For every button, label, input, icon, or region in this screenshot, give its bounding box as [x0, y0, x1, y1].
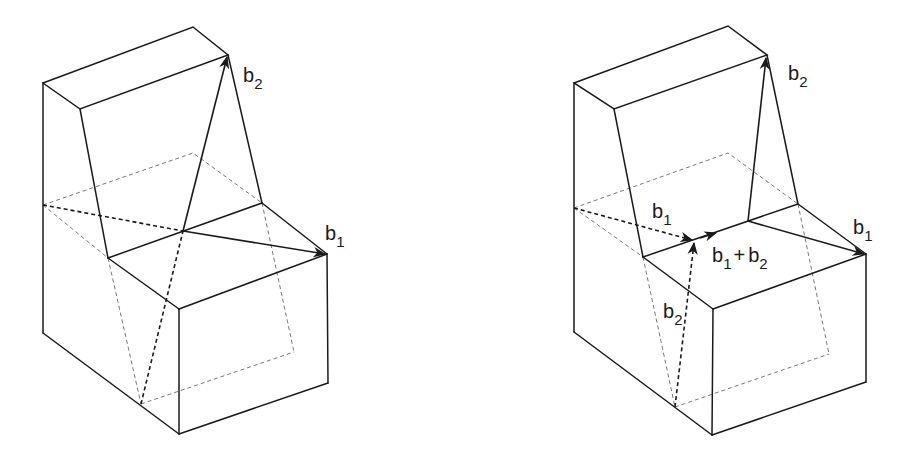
right-b1-right-arrow	[748, 221, 864, 254]
left-b1-hidden-segment	[43, 205, 183, 231]
right-hidden-edges	[574, 153, 829, 407]
left-hidden-edges	[43, 153, 294, 404]
right-label-b1-right: b1	[853, 216, 872, 244]
left-vectors	[43, 57, 325, 404]
right-b2-top-arrow	[748, 58, 766, 221]
right-label-b1-inner: b1	[652, 200, 671, 228]
right-label-b2-inner: b2	[663, 300, 682, 328]
left-figure: b2 b1	[43, 27, 344, 434]
right-figure: b2 b1 b1 b1+b2 b2	[574, 26, 872, 435]
left-b2-arrow	[183, 57, 227, 231]
left-b2-hidden-segment	[141, 231, 183, 404]
right-vectors	[574, 58, 864, 407]
right-sum-arrow	[700, 233, 716, 238]
right-b1-inner-arrow	[574, 208, 692, 240]
right-label-sum: b1+b2	[712, 244, 768, 272]
left-solid-edges	[43, 27, 328, 434]
left-b1-arrow	[183, 231, 325, 254]
left-label-b2: b2	[243, 64, 262, 92]
diagram-canvas: b2 b1	[0, 0, 903, 457]
right-label-b2-top: b2	[788, 62, 807, 90]
right-solid-edges	[574, 26, 866, 435]
left-label-b1: b1	[325, 222, 344, 250]
